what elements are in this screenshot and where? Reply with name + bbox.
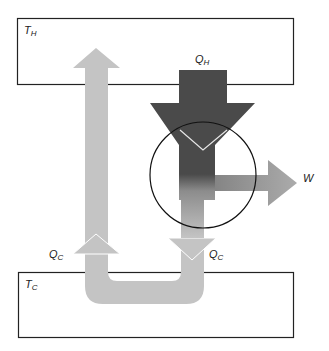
hot-reservoir-label: TH: [24, 25, 37, 38]
cold-reservoir-label: TC: [25, 279, 38, 292]
qc-return-arrowhead: [73, 234, 120, 254]
w-label: W: [303, 173, 313, 184]
hot-reservoir-box: [18, 19, 294, 85]
qh-label: QH: [195, 54, 209, 67]
qc-return-label: QC: [49, 249, 63, 262]
qc-out-label: QC: [209, 249, 223, 262]
heat-engine-diagram: [0, 0, 329, 351]
